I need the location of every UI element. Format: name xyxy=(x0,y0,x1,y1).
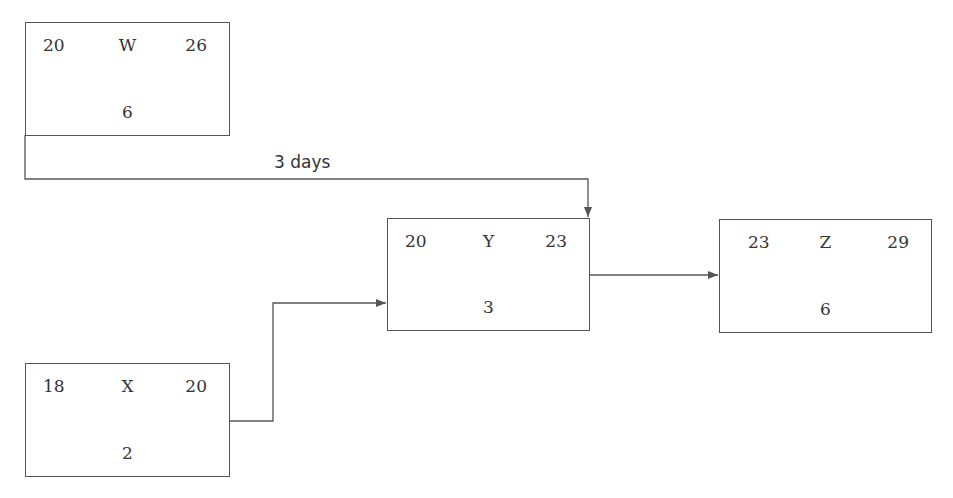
node-w: 20 W 26 6 xyxy=(25,22,230,136)
early-finish: 23 xyxy=(545,233,567,250)
early-start: 20 xyxy=(405,233,427,250)
edge-label-lag: 3 days xyxy=(274,152,330,172)
duration: 6 xyxy=(122,104,133,121)
early-start: 20 xyxy=(43,37,65,54)
duration: 3 xyxy=(483,299,494,316)
node-x: 18 X 20 2 xyxy=(25,363,230,477)
node-y: 20 Y 23 3 xyxy=(387,218,590,331)
activity-label: Y xyxy=(483,233,494,250)
early-finish: 26 xyxy=(185,37,207,54)
early-start: 23 xyxy=(748,234,770,251)
edge-w-to-y xyxy=(25,135,588,217)
duration: 6 xyxy=(820,301,831,318)
early-finish: 20 xyxy=(185,378,207,395)
edge-x-to-y xyxy=(229,303,386,421)
duration: 2 xyxy=(122,445,133,462)
activity-label: X xyxy=(121,378,133,395)
activity-label: W xyxy=(119,37,136,54)
early-finish: 29 xyxy=(887,234,909,251)
early-start: 18 xyxy=(43,378,65,395)
activity-label: Z xyxy=(820,234,832,251)
node-z: 23 Z 29 6 xyxy=(719,219,932,333)
